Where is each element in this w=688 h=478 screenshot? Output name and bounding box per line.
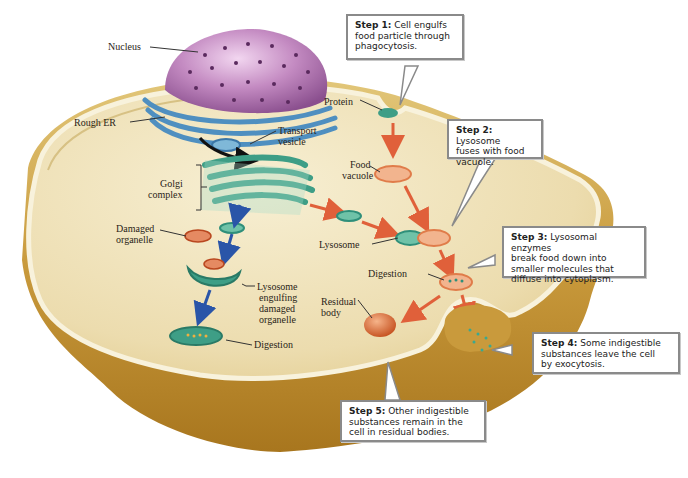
label-food-vacuole-2: vacuole [342, 170, 373, 181]
label-residual-2: body [321, 307, 341, 318]
step-5-text-2: substances remain in the [349, 417, 463, 427]
step-4-title: Step 4: [541, 338, 577, 348]
label-engulf-1: Lysosome [257, 281, 298, 292]
label-digestion-right: Digestion [368, 268, 407, 279]
step-2-text-2: fuses with food [456, 146, 525, 156]
step-3-text-3: smaller molecules that [511, 264, 614, 274]
step-1-text-2: food particle through [355, 31, 450, 41]
label-damaged-2: organelle [116, 234, 153, 245]
label-engulf-3: damaged [259, 303, 295, 314]
step-4-text-2: substances leave the cell [541, 349, 655, 359]
label-food-vacuole-1: Food [350, 159, 371, 170]
label-golgi-1: Golgi [160, 178, 183, 189]
step-3-text-2: break food down into [511, 253, 606, 263]
food-vacuole-fusing [418, 230, 450, 246]
callout-step-4: Step 4: Some indigestible substances lea… [532, 332, 680, 374]
step-5-title: Step 5: [349, 406, 385, 416]
exocytosis-pocket [444, 305, 511, 352]
step-3-text-4: diffuse into cytoplasm. [511, 274, 614, 284]
step-3-title: Step 3: [511, 232, 547, 242]
callout-step-1: Step 1: Cell engulfs food particle throu… [346, 14, 464, 60]
label-engulf-2: engulfing [259, 292, 297, 303]
label-residual-1: Residual [321, 296, 356, 307]
step-1-title: Step 1: [355, 20, 391, 30]
label-transport-vesicle-2: vesicle [278, 136, 306, 147]
step-4-text-3: by exocytosis. [541, 359, 605, 369]
callout-step-2: Step 2: Lysosome fuses with food vacuole… [447, 119, 543, 159]
step-4-text-1: Some indigestible [580, 338, 661, 348]
lysosome-budding [220, 223, 244, 233]
callout-step-3: Step 3: Lysosomal enzymes break food dow… [502, 226, 646, 278]
step-5-text-1: Other indigestible [388, 406, 469, 416]
label-engulf-4: organelle [259, 314, 296, 325]
step-1-text-1: Cell engulfs [394, 20, 447, 30]
step-2-text-3: vacuole. [456, 157, 494, 167]
nucleus [165, 29, 327, 113]
label-damaged-1: Damaged [116, 223, 154, 234]
step-2-text-1: Lysosome [456, 136, 500, 146]
step-5-text-3: cell in residual bodies. [349, 427, 449, 437]
step-1-text-3: phagocytosis. [355, 41, 417, 51]
residual-body [364, 313, 396, 337]
label-rough-er: Rough ER [74, 117, 116, 128]
digestion-vesicle-right [440, 274, 472, 290]
label-protein: Protein [324, 96, 353, 107]
label-digestion-left: Digestion [254, 339, 293, 350]
food-vacuole [375, 166, 411, 182]
damaged-organelle [185, 230, 211, 242]
label-golgi-2: complex [148, 189, 182, 200]
label-transport-vesicle-1: Transport [278, 125, 317, 136]
lysosome-diagram: Nucleus Rough ER Transport vesicle Golgi… [0, 0, 688, 478]
step-2-title: Step 2: [456, 125, 492, 135]
digestion-vesicle-left [170, 327, 222, 345]
label-nucleus: Nucleus [108, 41, 141, 52]
callout-step-5: Step 5: Other indigestible substances re… [340, 400, 486, 442]
label-lysosome: Lysosome [319, 239, 360, 250]
lysosome-small [337, 211, 361, 221]
